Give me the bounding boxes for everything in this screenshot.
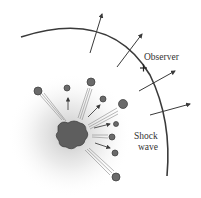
arrow-2 xyxy=(117,34,142,67)
shock-wave-label-line1: Shock xyxy=(134,131,158,141)
observer-marker xyxy=(140,65,147,72)
shock-wave-label-line2: wave xyxy=(138,142,158,152)
observer-label: Observer xyxy=(144,52,179,62)
shock-wave-diagram xyxy=(0,0,201,198)
arrow-4 xyxy=(150,104,190,115)
arrow-3 xyxy=(139,71,175,91)
